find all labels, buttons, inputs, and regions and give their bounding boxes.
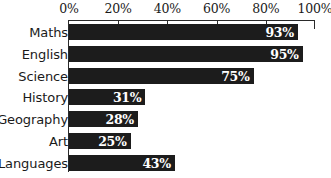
bar-row: English95% bbox=[0, 43, 331, 65]
x-axis-tick-label: 60% bbox=[203, 1, 230, 16]
bar-chart: 0%20%40%60%80%100% Maths93%English95%Sci… bbox=[0, 0, 331, 178]
bar-track: 93% bbox=[69, 24, 315, 40]
bar-value-label: 28% bbox=[98, 112, 134, 127]
bar-row: Geography28% bbox=[0, 108, 331, 130]
bar-value-label: 93% bbox=[258, 25, 294, 40]
bar-track: 31% bbox=[69, 89, 315, 105]
x-axis-tick-label: 40% bbox=[154, 1, 181, 16]
bar-row: Science75% bbox=[0, 65, 331, 87]
x-axis-tick-label: 100% bbox=[298, 1, 331, 16]
x-axis-tick-label: 80% bbox=[252, 1, 279, 16]
x-axis-tick-labels: 0%20%40%60%80%100% bbox=[0, 0, 331, 18]
x-axis-tick-label: 20% bbox=[105, 1, 132, 16]
bar-track: 95% bbox=[69, 46, 315, 62]
bar-value-label: 31% bbox=[105, 90, 141, 105]
category-label: Languages bbox=[0, 155, 68, 170]
bar-track: 28% bbox=[69, 111, 315, 127]
x-axis-tick-label: 0% bbox=[59, 1, 78, 16]
category-label: Maths bbox=[29, 25, 68, 40]
bar-value-label: 75% bbox=[214, 68, 250, 83]
category-label: Art bbox=[49, 134, 68, 149]
bar-track: 75% bbox=[69, 68, 315, 84]
bar-value-label: 95% bbox=[263, 46, 299, 61]
bar-track: 43% bbox=[69, 155, 315, 171]
category-label: Science bbox=[18, 68, 68, 83]
category-label: History bbox=[22, 90, 68, 105]
bar-value-label: 25% bbox=[91, 134, 127, 149]
bar-track: 25% bbox=[69, 133, 315, 149]
bar-row: Languages43% bbox=[0, 152, 331, 174]
bar-value-label: 43% bbox=[135, 155, 171, 170]
bar-row: History31% bbox=[0, 86, 331, 108]
category-label: Geography bbox=[0, 112, 68, 127]
bar-row: Maths93% bbox=[0, 21, 331, 43]
bar-row: Art25% bbox=[0, 130, 331, 152]
category-label: English bbox=[22, 46, 68, 61]
